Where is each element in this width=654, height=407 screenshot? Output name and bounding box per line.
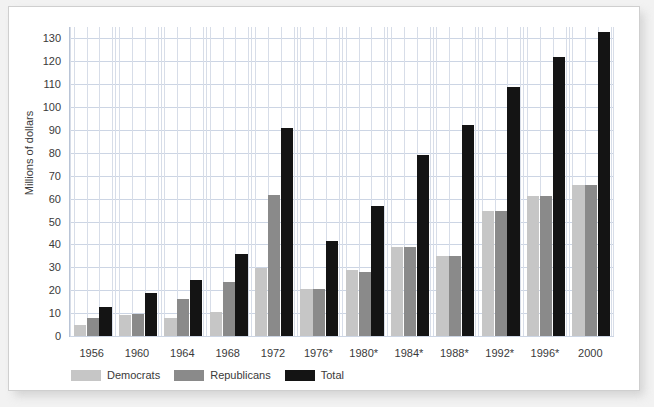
bar-total-1968 (235, 254, 247, 336)
y-tick-label: 110 (43, 78, 61, 90)
bar-democrats-1972 (255, 268, 267, 336)
x-tick-label: 1956 (79, 347, 103, 359)
gridline-vertical (613, 27, 614, 336)
bar-total-1960 (145, 293, 157, 336)
y-tick-label: 80 (49, 147, 61, 159)
gridline-vertical (433, 27, 434, 336)
gridline-vertical (145, 27, 146, 336)
bar-total-1980 (371, 206, 383, 336)
gridline-vertical (339, 27, 340, 336)
gridline-vertical (115, 27, 116, 336)
bar-total-2000 (598, 32, 610, 336)
gridline-vertical (566, 27, 567, 336)
y-tick-label: 60 (49, 193, 61, 205)
gridline-vertical (342, 27, 343, 336)
gridline-horizontal (70, 336, 614, 337)
x-tick-label: 1984* (395, 347, 424, 359)
legend-swatch-icon (71, 370, 101, 381)
y-axis-title: Millions of dollars (23, 73, 35, 233)
bar-republicans-1988 (449, 256, 461, 336)
y-tick-label: 90 (49, 124, 61, 136)
plot-area (69, 27, 614, 337)
y-tick-label: 100 (43, 101, 61, 113)
legend-label: Republicans (210, 369, 271, 381)
bar-total-1988 (462, 125, 474, 336)
bar-republicans-1976 (313, 289, 325, 336)
bar-total-1972 (281, 128, 293, 336)
bar-democrats-1996 (527, 196, 539, 336)
bar-democrats-1988 (436, 256, 448, 336)
y-tick-label: 120 (43, 55, 61, 67)
gridline-vertical (70, 27, 71, 336)
legend-swatch-icon (285, 370, 315, 381)
x-tick-label: 1972 (261, 347, 285, 359)
y-tick-label: 30 (49, 261, 61, 273)
y-tick-label: 130 (43, 32, 61, 44)
x-tick-label: 1976* (304, 347, 333, 359)
gridline-vertical (99, 27, 100, 336)
x-tick-label: 2000 (578, 347, 602, 359)
bar-democrats-1980 (346, 270, 358, 336)
bar-republicans-1964 (177, 299, 189, 336)
gridline-vertical (206, 27, 207, 336)
gridline-vertical (112, 27, 113, 336)
gridline-vertical (203, 27, 204, 336)
gridline-vertical (251, 27, 252, 336)
bar-republicans-1956 (87, 318, 99, 336)
x-tick-label: 1960 (125, 347, 149, 359)
gridline-vertical (158, 27, 159, 336)
bar-republicans-1980 (359, 272, 371, 336)
gridline-vertical (177, 27, 178, 336)
x-tick-label: 1992* (485, 347, 514, 359)
bar-republicans-1968 (223, 282, 235, 336)
chart-card: 0102030405060708090100110120130 Millions… (8, 6, 640, 391)
gridline-vertical (132, 27, 133, 336)
bar-democrats-1960 (119, 315, 131, 336)
bar-democrats-1992 (482, 211, 494, 336)
legend-item: Total (285, 369, 344, 381)
x-tick-label: 1980* (349, 347, 378, 359)
gridline-vertical (478, 27, 479, 336)
bar-republicans-1992 (495, 211, 507, 336)
bar-democrats-1964 (164, 318, 176, 336)
bar-democrats-1984 (391, 247, 403, 336)
bar-total-1976 (326, 241, 338, 336)
bar-republicans-2000 (585, 185, 597, 336)
gridline-vertical (164, 27, 165, 336)
bar-total-1984 (417, 155, 429, 336)
legend-swatch-icon (174, 370, 204, 381)
gridline-vertical (569, 27, 570, 336)
y-tick-label: 70 (49, 170, 61, 182)
gridline-vertical (297, 27, 298, 336)
chart-legend: DemocratsRepublicansTotal (71, 369, 344, 381)
legend-label: Democrats (107, 369, 160, 381)
gridline-vertical (74, 27, 75, 336)
y-tick-label: 10 (49, 307, 61, 319)
bar-democrats-2000 (572, 185, 584, 336)
gridline-vertical (430, 27, 431, 336)
x-tick-label: 1996* (531, 347, 560, 359)
legend-label: Total (321, 369, 344, 381)
gridline-vertical (611, 27, 612, 336)
gridline-vertical (520, 27, 521, 336)
gridline-vertical (387, 27, 388, 336)
chart-page: 0102030405060708090100110120130 Millions… (0, 0, 654, 407)
gridline-vertical (384, 27, 385, 336)
y-tick-label: 20 (49, 284, 61, 296)
gridline-vertical (87, 27, 88, 336)
x-axis-labels: 195619601964196819721976*1980*1984*1988*… (69, 347, 614, 363)
legend-item: Democrats (71, 369, 160, 381)
x-tick-label: 1964 (170, 347, 194, 359)
y-tick-label: 0 (55, 330, 61, 342)
bar-total-1996 (553, 57, 565, 336)
bar-democrats-1956 (74, 325, 86, 336)
gridline-vertical (161, 27, 162, 336)
gridline-vertical (248, 27, 249, 336)
legend-item: Republicans (174, 369, 271, 381)
bar-total-1964 (190, 280, 202, 336)
bar-total-1956 (99, 307, 111, 336)
y-tick-label: 40 (49, 238, 61, 250)
bar-republicans-1960 (132, 314, 144, 336)
x-tick-label: 1988* (440, 347, 469, 359)
gridline-vertical (294, 27, 295, 336)
